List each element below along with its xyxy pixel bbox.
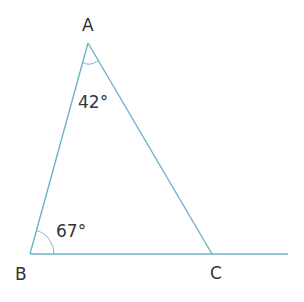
side-ac [88, 43, 212, 254]
angle-label-b: 67° [56, 221, 86, 241]
angle-arc-b [37, 231, 55, 255]
vertex-label-b: B [15, 264, 27, 284]
vertex-label-c: C [210, 263, 222, 283]
angle-arc-a [83, 61, 99, 65]
angle-label-a: 42° [78, 92, 108, 112]
triangle-diagram: A B C 42° 67° [0, 0, 304, 302]
vertex-label-a: A [82, 15, 94, 35]
